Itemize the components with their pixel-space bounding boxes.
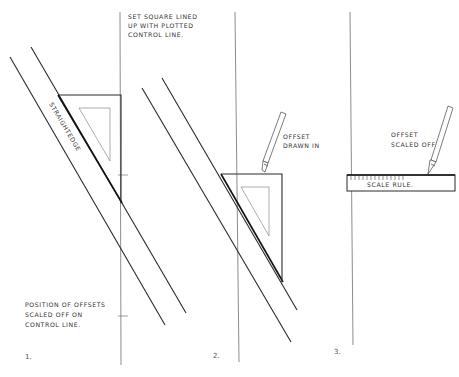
panel-1-note-line-3: CONTROL LINE.: [25, 321, 81, 328]
pencil-3-icon: [428, 106, 453, 174]
offset-plotting-diagram: STRAIGHTEDGE POSITION OF OFFSETS SCALED …: [0, 0, 459, 377]
panel-1: STRAIGHTEDGE POSITION OF OFFSETS SCALED …: [10, 12, 186, 365]
panel-3: SCALE RULE. OFFSET SCALED OFF 3.: [334, 12, 455, 356]
panel-3-note-line-1: OFFSET: [391, 131, 418, 138]
panel-2-top-note-line-2: UP WITH PLOTTED: [128, 22, 194, 29]
panel-3-note-line-2: SCALED OFF: [391, 141, 436, 148]
panel-1-note-line-1: POSITION OF OFFSETS: [25, 301, 106, 308]
scale-rule-label: SCALE RULE.: [367, 181, 414, 188]
set-square-1-cutout: [79, 108, 110, 161]
straightedge-1-lower-edge: [10, 57, 165, 325]
panel-2-top-note-line-3: CONTROL LINE.: [128, 31, 184, 38]
set-square-2-cutout: [241, 187, 269, 236]
panel-1-number: 1.: [25, 353, 32, 361]
panel-2-number: 2.: [213, 352, 220, 360]
straightedge-1-contact-edge: [58, 95, 122, 203]
straightedge-2-contact-edge: [221, 174, 283, 282]
control-line-2: [235, 12, 239, 362]
straightedge-2-upper-edge: [162, 78, 297, 310]
panel-3-number: 3.: [334, 348, 341, 356]
panel-2: SET SQUARE LINED UP WITH PLOTTED CONTROL…: [128, 12, 320, 362]
panel-2-note-line-2: DRAWN IN: [283, 142, 320, 149]
panel-1-note-line-2: SCALED OFF ON: [25, 311, 83, 318]
panel-2-top-note-line-1: SET SQUARE LINED: [128, 13, 198, 20]
panel-2-note-line-1: OFFSET: [283, 133, 310, 140]
